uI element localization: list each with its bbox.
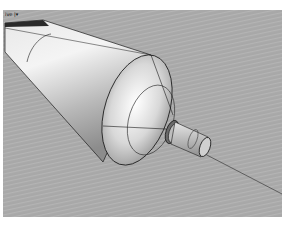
status-caption xyxy=(0,217,284,226)
chevron-down-icon[interactable]: ▾ xyxy=(16,11,19,17)
perspective-viewport[interactable]: ive |▾ xyxy=(3,10,282,217)
model-geometry xyxy=(3,10,282,217)
viewport-name: ive | xyxy=(5,11,16,17)
window-title-caption xyxy=(0,0,284,10)
viewport-title[interactable]: ive |▾ xyxy=(5,11,18,17)
